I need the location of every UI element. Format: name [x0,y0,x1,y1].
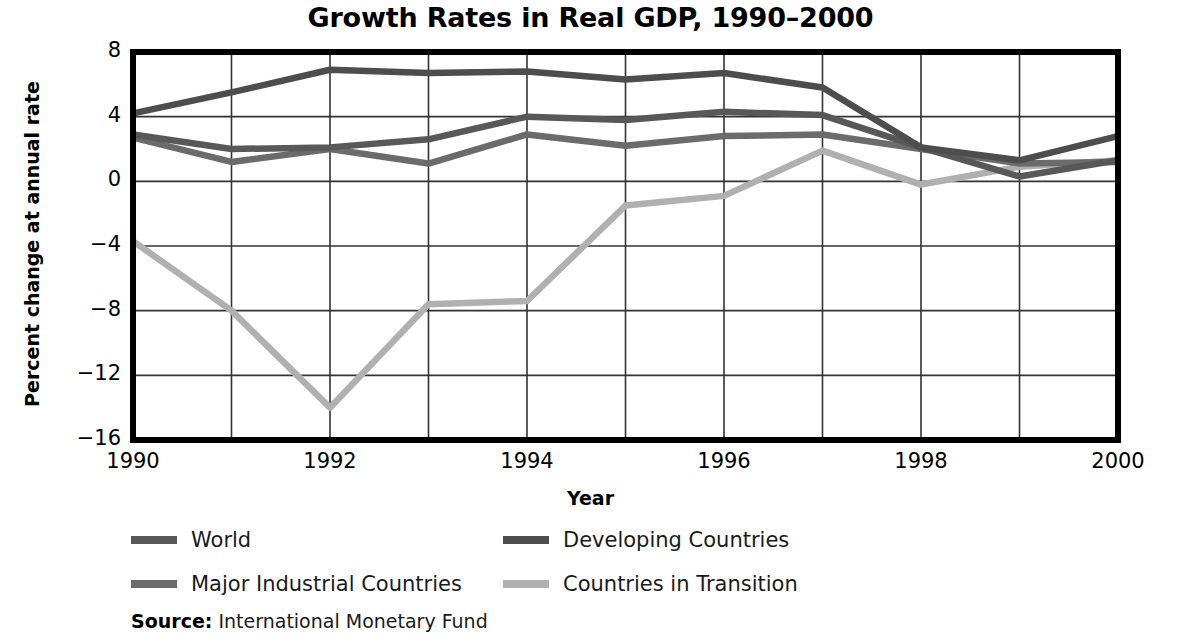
legend-label: World [191,528,251,552]
legend-swatch-line-icon [131,580,177,588]
x-tick-label: 1996 [669,449,779,473]
x-tick-label: 1990 [78,449,188,473]
legend-label: Major Industrial Countries [191,572,462,596]
y-tick-label: 0 [57,167,121,191]
legend-swatch-line-icon [503,580,549,588]
legend-swatch-line-icon [131,536,177,544]
y-tick-label: −12 [57,361,121,385]
source-note: Source: International Monetary Fund [131,610,488,632]
y-tick-label: 4 [57,103,121,127]
gdp-growth-chart-figure: Growth Rates in Real GDP, 1990–2000 Perc… [0,0,1181,636]
legend-item-countries-in-transition[interactable]: Countries in Transition [503,562,798,606]
legend-swatch-line-icon [503,536,549,544]
legend-item-major-industrial-countries[interactable]: Major Industrial Countries [131,562,462,606]
x-tick-label: 2000 [1063,449,1173,473]
x-axis-label: Year [0,487,1181,509]
legend-item-world[interactable]: World [131,518,251,562]
x-tick-label: 1992 [275,449,385,473]
legend-label: Countries in Transition [563,572,798,596]
chart-legend: World Developing Countries Major Industr… [131,518,1031,606]
source-value: International Monetary Fund [218,610,487,632]
gridlines [133,52,1118,440]
y-tick-label: 8 [57,38,121,62]
y-tick-label: −8 [57,297,121,321]
x-tick-label: 1994 [472,449,582,473]
legend-row: World Developing Countries [131,518,1031,562]
x-tick-label: 1998 [866,449,976,473]
y-tick-label: −4 [57,232,121,256]
legend-item-developing-countries[interactable]: Developing Countries [503,518,789,562]
source-key: Source: [131,610,212,632]
y-tick-label: −16 [57,426,121,450]
legend-row: Major Industrial Countries Countries in … [131,562,1031,606]
legend-label: Developing Countries [563,528,789,552]
